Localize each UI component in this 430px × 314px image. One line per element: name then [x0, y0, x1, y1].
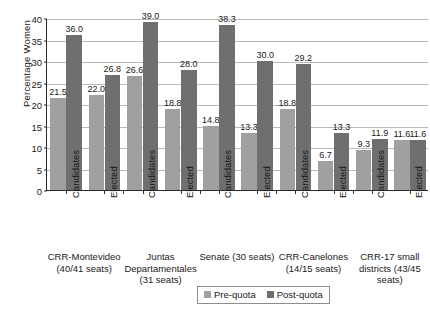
- bar-chart: Percentage Women 0510152025303540 21.536…: [0, 0, 430, 314]
- x-axis-tick-mark: [410, 190, 411, 194]
- bar-value-label: 29.2: [295, 53, 313, 63]
- x-axis-tick-label: Elected: [413, 166, 424, 198]
- x-axis-tick-mark: [66, 190, 67, 194]
- bar-value-label: 14.8: [202, 115, 220, 125]
- y-axis-tick-label: 5: [13, 164, 47, 175]
- bar-value-label: 28.0: [180, 59, 198, 69]
- group-label-line: Departamentales: [112, 263, 210, 275]
- x-axis-tick-label: Candidates: [222, 150, 233, 198]
- bar-value-label: 6.7: [319, 150, 332, 160]
- bar-value-label: 18.8: [278, 98, 296, 108]
- x-axis-group-separator: [123, 190, 124, 194]
- x-axis-tick-label: Elected: [261, 166, 272, 198]
- y-axis-tick-label: 15: [13, 121, 47, 132]
- x-axis-tick-label: Elected: [108, 166, 119, 198]
- legend-item: Post-quota: [267, 289, 323, 300]
- legend-item: Pre-quota: [204, 289, 256, 300]
- legend-swatch: [267, 291, 274, 298]
- x-axis-tick-mark: [181, 190, 182, 194]
- x-axis-tick-label: Candidates: [375, 150, 386, 198]
- x-axis-tick-mark: [295, 190, 296, 194]
- x-axis-tick-label: Elected: [337, 166, 348, 198]
- x-axis-tick-mark: [143, 190, 144, 194]
- bar-value-label: 11.9: [371, 128, 388, 138]
- bar-value-label: 11.6: [410, 129, 427, 139]
- bar-pre: [50, 98, 66, 190]
- legend-label: Pre-quota: [214, 289, 256, 300]
- bar-value-label: 22.0: [87, 84, 105, 94]
- x-axis-tick-label: Elected: [184, 166, 195, 198]
- x-axis-tick-label: Candidates: [70, 150, 81, 198]
- y-axis-tick-label: 40: [13, 14, 47, 25]
- bar-pre: [127, 76, 143, 190]
- bar-value-label: 38.3: [218, 14, 236, 24]
- x-axis-group-separator: [200, 190, 201, 194]
- plot-area: 0510152025303540 21.536.022.026.826.639.…: [46, 19, 428, 191]
- bar-pre: [280, 109, 296, 190]
- x-axis-tick-mark: [334, 190, 335, 194]
- bar-pre: [165, 109, 181, 190]
- group-label-line: districts (43/45: [341, 263, 430, 275]
- x-axis-group-separator: [353, 190, 354, 194]
- bar-value-label: 11.6: [393, 129, 410, 139]
- x-axis-tick-label: Candidates: [146, 150, 157, 198]
- y-axis-tick-label: 20: [13, 100, 47, 111]
- bar-value-label: 39.0: [142, 11, 160, 21]
- bar-value-label: 30.0: [256, 50, 274, 60]
- group-label-line: CRR-17 small: [341, 251, 430, 263]
- x-axis-group-label: CRR-17 smalldistricts (43/45seats): [341, 251, 430, 286]
- bar-value-label: 21.5: [49, 87, 67, 97]
- bar-pre: [394, 140, 410, 190]
- chart-legend: Pre-quotaPost-quota: [197, 286, 330, 304]
- y-axis-tick-label: 30: [13, 57, 47, 68]
- y-axis-tick-mark: [44, 191, 48, 192]
- y-axis-tick-label: 35: [13, 35, 47, 46]
- bar-value-label: 13.3: [240, 122, 258, 132]
- bar-value-label: 9.3: [357, 139, 370, 149]
- bar-value-label: 26.6: [126, 65, 144, 75]
- bar-pre: [241, 133, 257, 190]
- legend-swatch: [204, 291, 211, 298]
- bar-value-label: 36.0: [65, 24, 83, 34]
- y-axis-tick-label: 10: [13, 143, 47, 154]
- x-axis-tick-mark: [372, 190, 373, 194]
- bar-pre: [203, 126, 219, 190]
- bar-value-label: 26.8: [104, 64, 122, 74]
- y-axis-tick-label: 0: [13, 186, 47, 197]
- x-axis-tick-mark: [257, 190, 258, 194]
- bar-value-label: 18.8: [164, 98, 182, 108]
- y-axis-tick-label: 25: [13, 78, 47, 89]
- group-label-line: seats): [341, 274, 430, 286]
- x-axis-tick-mark: [219, 190, 220, 194]
- bar-pre: [356, 150, 372, 190]
- x-axis-tick-label: Candidates: [299, 150, 310, 198]
- x-axis-group-separator: [276, 190, 277, 194]
- bar-series-group: 21.536.022.026.826.639.018.828.014.838.3…: [47, 19, 428, 190]
- legend-label: Post-quota: [277, 289, 323, 300]
- group-label-line: (31 seats): [112, 274, 210, 286]
- bar-pre: [89, 95, 105, 190]
- x-axis-tick-mark: [104, 190, 105, 194]
- bar-pre: [318, 161, 334, 190]
- bar-value-label: 13.3: [333, 122, 351, 132]
